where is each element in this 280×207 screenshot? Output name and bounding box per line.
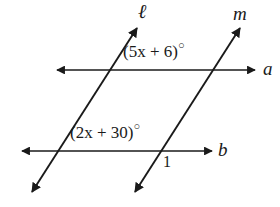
line-label-a: a bbox=[263, 59, 273, 78]
degree-icon: ○ bbox=[133, 120, 140, 132]
angle-expression-text: (5x + 6) bbox=[123, 42, 178, 61]
diagram-canvas bbox=[0, 0, 280, 207]
degree-icon: ○ bbox=[178, 39, 185, 51]
angle-label-5x-plus-6: (5x + 6)○ bbox=[123, 41, 185, 60]
line-label-ell: ℓ bbox=[138, 1, 146, 21]
line-label-m: m bbox=[233, 4, 247, 23]
angle-label-2x-plus-30: (2x + 30)○ bbox=[70, 122, 140, 141]
angle-label-1: 1 bbox=[163, 154, 171, 170]
geometry-diagram: ℓ m a b (5x + 6)○ (2x + 30)○ 1 bbox=[0, 0, 280, 207]
line-label-b: b bbox=[218, 140, 228, 159]
angle-expression-text: (2x + 30) bbox=[70, 123, 133, 142]
line-ell bbox=[32, 28, 137, 192]
